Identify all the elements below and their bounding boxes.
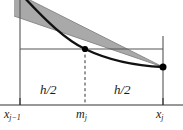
tick-label-x-j: xj bbox=[156, 108, 164, 120]
right-endpoint-point bbox=[160, 64, 167, 71]
figure-container: h/2 h/2 xj−1 mj xj bbox=[0, 0, 183, 130]
tick-label-m-subscript: j bbox=[85, 113, 87, 122]
tick-label-m-base: m bbox=[76, 107, 85, 121]
interval-label-right: h/2 bbox=[114, 83, 131, 96]
interval-label-left: h/2 bbox=[40, 83, 57, 96]
tick-label-x-subscript: j−1 bbox=[9, 113, 21, 122]
midpoint-tangency-point bbox=[82, 46, 88, 52]
tick-label-xj-subscript: j bbox=[161, 113, 163, 122]
band-lower-boundary-line bbox=[14, 16, 163, 67]
tick-label-m-j: mj bbox=[76, 108, 87, 120]
tick-label-x-j-minus-1: xj−1 bbox=[4, 108, 21, 120]
